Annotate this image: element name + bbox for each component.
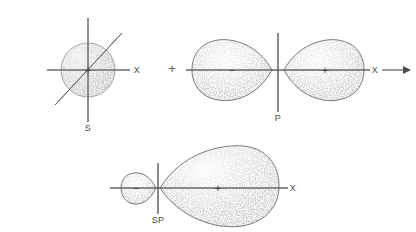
orbital-hybridization-figure: + X S + − + X P [0, 0, 416, 232]
p-orbital-minus-sign: − [229, 64, 235, 76]
sp-orbital-minus-sign: − [133, 182, 139, 194]
diagram-canvas: + X S + − + X P [0, 0, 416, 232]
s-orbital-label: S [85, 123, 91, 133]
p-orbital-label: P [275, 113, 281, 123]
s-orbital-plus-sign: + [85, 64, 91, 76]
s-orbital-x-axis-label: X [134, 65, 140, 75]
plus-operator: + [168, 61, 176, 76]
p-orbital-plus-sign: + [322, 64, 328, 76]
sp-orbital-label: SP [152, 215, 165, 225]
sp-orbital-plus-sign: + [215, 182, 221, 194]
p-orbital-x-axis-label: X [372, 65, 378, 75]
sp-orbital-x-axis-label: X [290, 183, 296, 193]
